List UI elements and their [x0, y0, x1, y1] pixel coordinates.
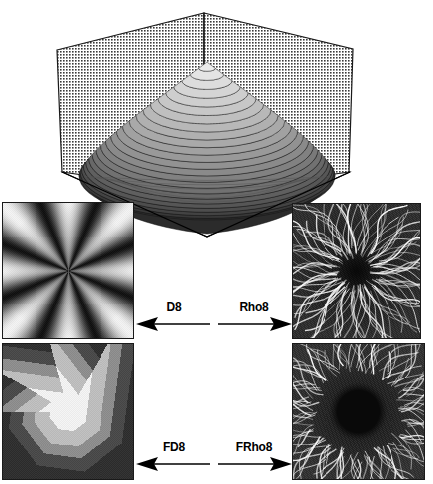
arrow-row-top: D8 Rho8 — [136, 300, 292, 336]
arrow-fd8: FD8 — [136, 440, 212, 476]
arrow-frho8-label: FRho8 — [216, 440, 292, 454]
arrow-rho8: Rho8 — [216, 300, 292, 336]
arrow-row-bottom: FD8 FRho8 — [136, 440, 292, 476]
arrow-fd8-label: FD8 — [136, 440, 212, 454]
arrow-d8-label: D8 — [136, 300, 212, 314]
arrow-d8: D8 — [136, 300, 212, 336]
arrow-d8-glyph — [136, 314, 212, 334]
arrow-frho8: FRho8 — [216, 440, 292, 476]
arrow-frho8-glyph — [216, 454, 292, 474]
arrow-rho8-glyph — [216, 314, 292, 334]
panel-rho8[interactable] — [292, 203, 421, 339]
figure-root: D8 Rho8 FD8 FRho8 — [0, 0, 433, 484]
arrow-rho8-label: Rho8 — [216, 300, 292, 314]
panel-d8[interactable] — [2, 202, 134, 339]
panel-fd8[interactable] — [2, 343, 134, 480]
panel-frho8[interactable] — [292, 343, 425, 480]
arrow-fd8-glyph — [136, 454, 212, 474]
